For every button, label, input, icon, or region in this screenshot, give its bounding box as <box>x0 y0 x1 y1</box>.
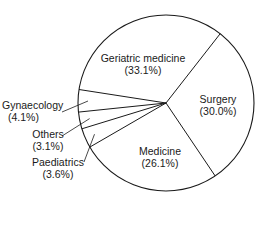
label-surgery-name: Surgery <box>188 93 248 105</box>
label-medicine-name: Medicine <box>130 145 190 157</box>
label-others: Others (3.1%) <box>28 128 68 152</box>
label-surgery-pct: (30.0%) <box>188 105 248 117</box>
label-geriatric-medicine-pct: (33.1%) <box>98 64 188 76</box>
label-paediatrics-pct: (3.6%) <box>30 168 86 180</box>
label-paediatrics-name: Paediatrics <box>30 156 86 168</box>
label-gynaecology-pct: (4.1%) <box>2 111 60 123</box>
label-others-name: Others <box>28 128 68 140</box>
label-geriatric-medicine: Geriatric medicine (33.1%) <box>98 52 188 76</box>
label-gynaecology: Gynaecology (4.1%) <box>2 99 60 123</box>
label-geriatric-medicine-name: Geriatric medicine <box>98 52 188 64</box>
label-medicine-pct: (26.1%) <box>130 157 190 169</box>
label-gynaecology-name: Gynaecology <box>2 99 60 111</box>
label-others-pct: (3.1%) <box>28 140 68 152</box>
label-paediatrics: Paediatrics (3.6%) <box>30 156 86 180</box>
label-medicine: Medicine (26.1%) <box>130 145 190 169</box>
label-surgery: Surgery (30.0%) <box>188 93 248 117</box>
